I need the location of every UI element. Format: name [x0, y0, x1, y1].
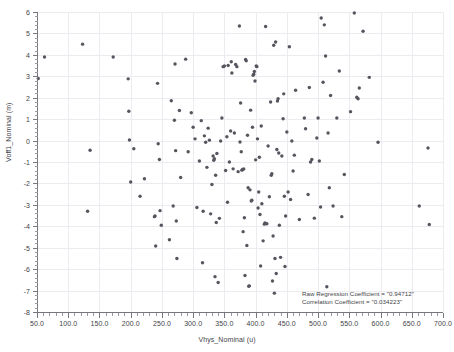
y-tick-label: -1: [16, 159, 30, 166]
x-tick-label: 500.0: [309, 320, 327, 327]
figure-caption-partial: [0, 345, 454, 352]
x-tick-label: 400.0: [247, 320, 265, 327]
x-tick-label: 250.0: [153, 320, 171, 327]
x-tick-label: 300.0: [184, 320, 202, 327]
y-tick-label: 1: [16, 116, 30, 123]
y-tick-label: -2: [16, 180, 30, 187]
y-tick-label: 4: [16, 51, 30, 58]
x-tick-label: 200.0: [122, 320, 140, 327]
y-tick-label: 6: [16, 9, 30, 16]
y-tick-label: 0: [16, 137, 30, 144]
y-axis-title: Voff1_Nominal (m): [5, 102, 12, 162]
y-tick-label: -3: [16, 201, 30, 208]
x-tick-label: 150.0: [90, 320, 108, 327]
x-tick-label: 600.0: [372, 320, 390, 327]
y-tick-label: 3: [16, 73, 30, 80]
y-tick-label: -7: [16, 287, 30, 294]
y-tick-label: -5: [16, 244, 30, 251]
y-tick-label: -8: [16, 309, 30, 316]
x-tick-label: 50.0: [30, 320, 44, 327]
y-tick-label: 2: [16, 94, 30, 101]
x-tick-label: 550.0: [340, 320, 358, 327]
y-tick-label: 5: [16, 30, 30, 37]
y-tick-label: -4: [16, 223, 30, 230]
correlation-coefficient-text: Correlation Coefficient = "0.034223": [302, 298, 414, 306]
x-tick-label: 700.0: [434, 320, 452, 327]
x-tick-label: 650.0: [403, 320, 421, 327]
x-tick-label: 100.0: [59, 320, 77, 327]
statistics-annotation: Raw Regression Coefficient = "0.94712" C…: [302, 290, 414, 305]
x-tick-label: 450.0: [278, 320, 296, 327]
x-axis-title: Vhys_Nominal (u): [0, 336, 454, 343]
scatter-chart-figure: 50.0100.0150.0200.0250.0300.0350.0400.04…: [0, 0, 454, 352]
y-tick-label: -6: [16, 266, 30, 273]
raw-regression-coefficient-text: Raw Regression Coefficient = "0.94712": [302, 290, 414, 298]
x-tick-label: 350.0: [215, 320, 233, 327]
